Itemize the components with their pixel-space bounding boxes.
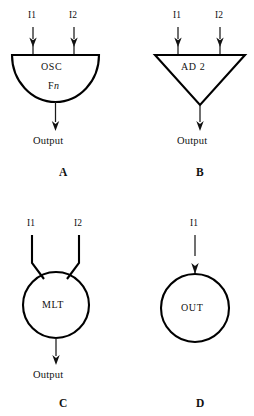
block-sublabel-fn: Fn bbox=[48, 81, 59, 91]
input-2-label: I2 bbox=[215, 11, 223, 21]
panel-a: I1 I2 OSC Fn Output A bbox=[0, 0, 127, 208]
output-arrowhead bbox=[52, 121, 59, 131]
input-2-label: I2 bbox=[69, 11, 77, 21]
block-label-mlt: MLT bbox=[42, 300, 64, 310]
panel-b: I1 I2 AD 2 Output B bbox=[127, 0, 254, 208]
panel-letter-a: A bbox=[59, 167, 68, 179]
panel-c-graphics bbox=[0, 208, 127, 416]
panel-c: I1 I2 MLT Output C bbox=[0, 208, 127, 416]
input-2-label: I2 bbox=[74, 219, 82, 229]
diagram-canvas: I1 I2 OSC Fn Output A I1 I2 AD 2 Output … bbox=[0, 0, 254, 416]
input-2-line bbox=[67, 235, 79, 279]
input-1-label: I1 bbox=[28, 11, 36, 21]
fn-italic-n: n bbox=[54, 80, 59, 91]
output-label: Output bbox=[177, 136, 207, 147]
block-label-out: OUT bbox=[181, 303, 203, 313]
output-arrowhead bbox=[52, 355, 59, 365]
panel-letter-b: B bbox=[196, 167, 204, 179]
panel-b-graphics bbox=[127, 0, 254, 208]
panel-d: I1 OUT D bbox=[127, 208, 254, 416]
block-label-ad2: AD 2 bbox=[181, 62, 205, 72]
input-1-label: I1 bbox=[190, 219, 198, 229]
block-label-osc: OSC bbox=[41, 62, 62, 72]
output-arrowhead bbox=[196, 121, 203, 131]
input-1-line bbox=[32, 235, 44, 279]
output-label: Output bbox=[33, 370, 63, 381]
panel-letter-d: D bbox=[196, 398, 205, 410]
input-1-label: I1 bbox=[173, 11, 181, 21]
panel-letter-c: C bbox=[59, 398, 68, 410]
input-1-label: I1 bbox=[27, 219, 35, 229]
output-label: Output bbox=[33, 136, 63, 147]
